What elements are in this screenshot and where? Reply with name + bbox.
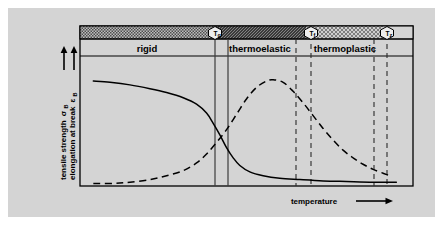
- marker-glass-transition: T g: [209, 27, 222, 40]
- badge-subscript-tf: f: [313, 32, 315, 38]
- badge-subscript-tz: z: [389, 32, 392, 38]
- strip-segment-rigid: [80, 26, 215, 39]
- y-label-text-sigma: tensile strength: [59, 120, 68, 180]
- badge-subscript-tg: g: [217, 32, 220, 38]
- polymer-behavior-chart: rigid thermoelastic thermoplastic T g T …: [8, 8, 435, 217]
- y-label-text-epsilon: elongation at break: [68, 106, 77, 180]
- phase-strip: [80, 26, 413, 39]
- region-label-thermoelastic: thermoelastic: [229, 43, 291, 54]
- y-label-symbol-sigma: σ: [59, 110, 68, 116]
- figure-panel: rigid thermoelastic thermoplastic T g T …: [8, 8, 435, 217]
- y-label-subscript-epsilon: B: [72, 92, 78, 96]
- y-label-symbol-epsilon: ε: [68, 98, 77, 102]
- x-axis-label: temperature: [291, 197, 338, 206]
- strip-segment-thermoelastic: [215, 26, 306, 39]
- svg-text:elongation at break: elongation at break ε B: [68, 92, 78, 180]
- chart-canvas: rigid thermoelastic thermoplastic T g T …: [8, 8, 435, 217]
- region-label-rigid: rigid: [137, 43, 158, 54]
- marker-decomposition: T z: [381, 27, 394, 40]
- marker-flow-temperature: T f: [305, 27, 318, 40]
- region-label-thermoplastic: thermoplastic: [314, 43, 376, 54]
- y-axis-label-elongation: elongation at break ε B: [68, 92, 78, 180]
